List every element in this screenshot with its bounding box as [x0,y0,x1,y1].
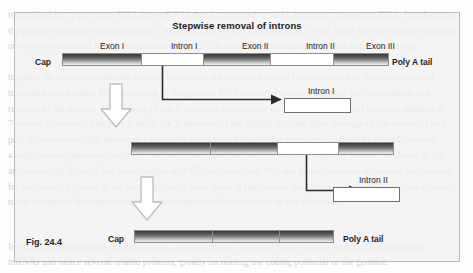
cap-label-primary: Cap [35,57,51,67]
polya-label-primary: Poly A tail [392,57,432,67]
exon-1-segment-row3 [135,231,212,242]
exon-2-segment [203,54,270,65]
segment-label-exon-2: Exon II [242,41,268,51]
figure-caption: Fig. 24.4 [26,237,62,247]
figure-panel: Stepwise removal of introns Exon I Intro… [14,12,460,262]
segment-label-intron-2: Intron II [306,41,335,51]
segment-label-intron-1: Intron I [171,41,197,51]
segment-label-exon-1: Exon I [100,41,124,51]
segment-label-exon-3: Exon III [366,41,395,51]
intron-1-segment [141,54,203,65]
exon-2-segment-row2 [210,143,277,154]
exon-2-segment-row3 [212,231,278,242]
polya-label-mature: Poly A tail [343,234,383,244]
exon-3-segment-row3 [279,231,333,242]
released-intron-2-box [333,187,400,202]
figure-title: Stepwise removal of introns [15,20,459,31]
exon-1-segment-row2 [132,143,210,154]
released-intron-1-label: Intron I [308,86,334,96]
released-intron-2-label: Intron II [359,175,388,185]
intron-2-segment [270,54,333,65]
mature-mrna-bar [134,230,334,243]
exon-1-segment [63,54,141,65]
intermediate-transcript-bar [131,142,394,155]
exon-3-segment [333,54,388,65]
released-intron-1-box [284,98,351,113]
scanned-page: transcribed into a precursor RNA (pre-mR… [0,0,473,273]
cap-label-mature: Cap [108,234,124,244]
exon-3-segment-row2 [338,143,393,154]
intron-1-release-arrow [161,66,291,110]
intron-2-segment-row2 [277,143,338,154]
splicing-step-1-arrow [99,83,133,129]
splicing-step-2-arrow [130,176,164,222]
primary-transcript-bar [62,53,389,66]
